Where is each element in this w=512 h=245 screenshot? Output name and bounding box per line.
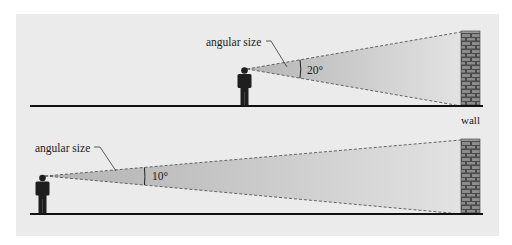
- bottom-wall: [461, 139, 480, 214]
- top-ground-line: [30, 105, 483, 107]
- bottom-angular-size-label: angular size: [35, 142, 90, 155]
- bottom-angle-value: 10°: [152, 170, 169, 182]
- angular-size-diagram: angular size 20° wall angular size 10°: [0, 0, 512, 245]
- bottom-ground-line: [30, 213, 483, 215]
- top-angular-size-label: angular size: [206, 36, 261, 49]
- top-angle-value: 20°: [307, 64, 324, 76]
- wall-label: wall: [461, 114, 480, 126]
- top-wall: [461, 31, 480, 106]
